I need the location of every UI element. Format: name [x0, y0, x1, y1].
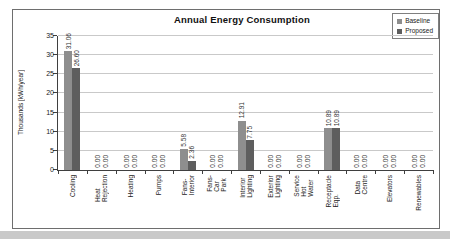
value-label: 0.00 — [304, 155, 311, 168]
x-axis-tickmark — [58, 170, 59, 174]
category-label: Fans-Car Park — [206, 175, 227, 192]
bar-proposed-6 — [246, 140, 254, 170]
y-axis-tick-label: 0 — [32, 166, 54, 174]
value-label: 0.00 — [131, 155, 138, 168]
bar-proposed-9 — [332, 128, 340, 170]
value-label: 0.00 — [159, 155, 166, 168]
value-label: 0.00 — [102, 155, 109, 168]
bar-baseline-9 — [324, 128, 332, 170]
value-label: 0.00 — [267, 155, 274, 168]
value-label: 0.00 — [217, 155, 224, 168]
x-axis-tickmark — [404, 170, 405, 174]
value-label: 31.06 — [65, 33, 72, 49]
value-label: 10.89 — [325, 110, 332, 126]
gridline — [58, 92, 433, 93]
value-label: 0.00 — [390, 155, 397, 168]
x-axis-tickmark — [346, 170, 347, 174]
x-axis-tickmark — [116, 170, 117, 174]
page-bottom-edge — [0, 231, 450, 239]
value-label: 0.00 — [296, 155, 303, 168]
value-label: 26.60 — [73, 50, 80, 66]
x-axis-tickmark — [289, 170, 290, 174]
category-label: Receptacle Eqp. — [325, 175, 339, 208]
x-axis-tickmark — [231, 170, 232, 174]
category-label: Renewables — [415, 175, 422, 211]
value-label: 10.89 — [333, 110, 340, 126]
y-axis-tick-label: 20 — [32, 89, 54, 97]
category-label: Fans-Interior — [181, 175, 195, 195]
value-label: 0.00 — [151, 155, 158, 168]
gridline — [58, 54, 433, 55]
bar-baseline-6 — [238, 121, 246, 170]
category-label: Data Centre — [354, 175, 368, 195]
x-axis-tickmark — [318, 170, 319, 174]
category-label: Exterior Lighting — [267, 175, 281, 198]
category-label: Heat Rejection — [94, 175, 108, 202]
value-label: 12.91 — [238, 102, 245, 118]
value-label: 0.00 — [123, 155, 130, 168]
x-axis-tickmark — [202, 170, 203, 174]
category-label: Pumps — [155, 175, 162, 195]
y-axis-title-wrap: Thousands [kWh/year] — [15, 36, 25, 170]
y-axis-tick-label: 25 — [32, 70, 54, 78]
y-axis-tick-label: 15 — [32, 109, 54, 117]
value-label: 0.00 — [382, 155, 389, 168]
x-axis-tickmark — [173, 170, 174, 174]
category-label: Heating — [127, 175, 134, 197]
value-label: 0.00 — [353, 155, 360, 168]
category-label: Elevators — [386, 175, 393, 202]
value-label: 0.00 — [94, 155, 101, 168]
value-label: 0.00 — [419, 155, 426, 168]
bar-proposed-4 — [188, 161, 196, 170]
gridline — [58, 112, 433, 113]
y-axis-tick-label: 5 — [32, 147, 54, 155]
gridline — [58, 35, 433, 36]
x-axis-tickmark — [87, 170, 88, 174]
category-label: Cooling — [69, 175, 76, 197]
gridline — [58, 73, 433, 74]
value-label: 5.58 — [180, 134, 187, 147]
x-axis-tickmark — [260, 170, 261, 174]
category-label: Service Hot Water — [293, 175, 314, 197]
chart-title: Annual Energy Consumption — [53, 14, 431, 25]
value-label: 0.00 — [275, 155, 282, 168]
y-axis-title: Thousands [kWh/year] — [17, 70, 24, 135]
y-axis-tick-label: 35 — [32, 32, 54, 40]
legend-label-baseline: Baseline — [405, 16, 430, 26]
y-axis-tick-label: 30 — [32, 51, 54, 59]
bar-baseline-0 — [64, 51, 72, 170]
value-label: 0.00 — [209, 155, 216, 168]
baseline-swatch-icon — [397, 19, 402, 24]
category-label: Interior Lighting — [239, 175, 253, 198]
plot-area: 0510152025303531.0626.60Cooling0.000.00H… — [57, 36, 433, 171]
y-axis-tick-label: 10 — [32, 128, 54, 136]
x-axis-tickmark — [433, 170, 434, 174]
value-label: 0.00 — [361, 155, 368, 168]
proposed-swatch-icon — [397, 29, 402, 34]
bar-proposed-0 — [72, 68, 80, 170]
legend-item-baseline: Baseline — [397, 16, 433, 26]
x-axis-tickmark — [145, 170, 146, 174]
x-axis-tickmark — [375, 170, 376, 174]
chart-frame: Annual Energy Consumption Baseline Propo… — [12, 9, 440, 229]
bar-baseline-4 — [180, 149, 188, 170]
value-label: 2.36 — [188, 146, 195, 159]
value-label: 0.00 — [411, 155, 418, 168]
value-label: 7.75 — [246, 126, 253, 139]
